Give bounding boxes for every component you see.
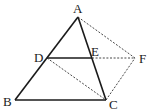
label-C: C	[109, 97, 118, 112]
label-A: A	[73, 1, 83, 16]
label-D: D	[34, 50, 43, 65]
label-B: B	[3, 94, 12, 109]
label-E: E	[91, 44, 99, 59]
label-F: F	[139, 51, 146, 66]
geometry-diagram: A B C D E F	[0, 0, 157, 112]
segment-AF	[78, 17, 135, 58]
segment-DC	[47, 58, 106, 100]
segment-CF	[106, 58, 135, 100]
